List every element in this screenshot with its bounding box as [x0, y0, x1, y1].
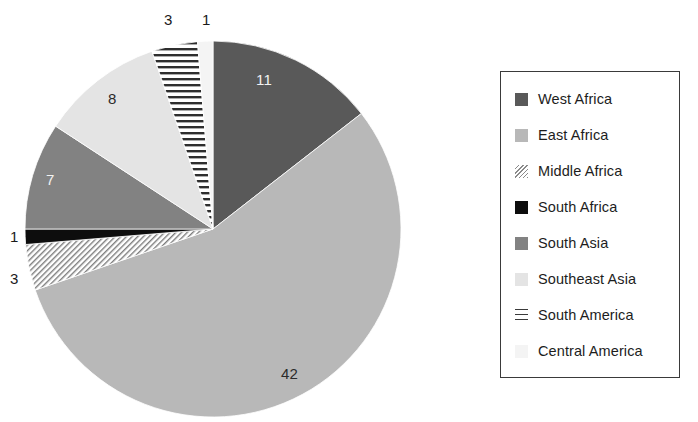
- slice-value-central-america: 1: [202, 11, 211, 28]
- legend-item-central-america[interactable]: Central America: [515, 333, 675, 369]
- legend-item-label: West Africa: [538, 91, 612, 107]
- slice-value-middle-africa: 3: [10, 270, 19, 287]
- slice-value-west-africa: 11: [256, 71, 272, 88]
- legend-swatch-west-africa-icon: [515, 93, 528, 106]
- legend-item-label: South America: [538, 307, 634, 323]
- slice-value-south-asia: 7: [46, 171, 55, 188]
- legend-item-south-africa[interactable]: South Africa: [515, 189, 675, 225]
- pie-slices-group: [25, 41, 401, 417]
- legend-swatch-central-america-icon: [515, 345, 528, 358]
- pie-plot-area: 11 42 3 1 7 8 3 1: [0, 0, 440, 422]
- legend-item-label: Southeast Asia: [538, 271, 636, 287]
- slice-value-south-africa: 1: [10, 228, 19, 245]
- chart-legend: West AfricaEast AfricaMiddle AfricaSouth…: [500, 71, 680, 378]
- legend-item-south-asia[interactable]: South Asia: [515, 225, 675, 261]
- legend-swatch-east-africa-icon: [515, 129, 528, 142]
- legend-item-southeast-asia[interactable]: Southeast Asia: [515, 261, 675, 297]
- legend-swatch-south-america-icon: [515, 309, 528, 322]
- pie-svg: [0, 0, 440, 422]
- legend-item-middle-africa[interactable]: Middle Africa: [515, 153, 675, 189]
- legend-item-label: South Africa: [538, 199, 617, 215]
- legend-item-label: Central America: [538, 343, 643, 359]
- slice-value-east-africa: 42: [281, 365, 298, 382]
- pie-chart-figure: 11 42 3 1 7 8 3 1 West AfricaEast Africa…: [0, 0, 698, 422]
- legend-item-label: South Asia: [538, 235, 608, 251]
- legend-item-west-africa[interactable]: West Africa: [515, 81, 675, 117]
- slice-value-southeast-asia: 8: [108, 90, 117, 107]
- legend-item-south-america[interactable]: South America: [515, 297, 675, 333]
- legend-item-label: Middle Africa: [538, 163, 622, 179]
- legend-swatch-south-africa-icon: [515, 201, 528, 214]
- legend-item-label: East Africa: [538, 127, 608, 143]
- legend-swatch-south-asia-icon: [515, 237, 528, 250]
- legend-item-list: West AfricaEast AfricaMiddle AfricaSouth…: [515, 81, 675, 369]
- legend-swatch-southeast-asia-icon: [515, 273, 528, 286]
- legend-item-east-africa[interactable]: East Africa: [515, 117, 675, 153]
- legend-swatch-middle-africa-icon: [515, 165, 528, 178]
- slice-value-south-america: 3: [164, 11, 173, 28]
